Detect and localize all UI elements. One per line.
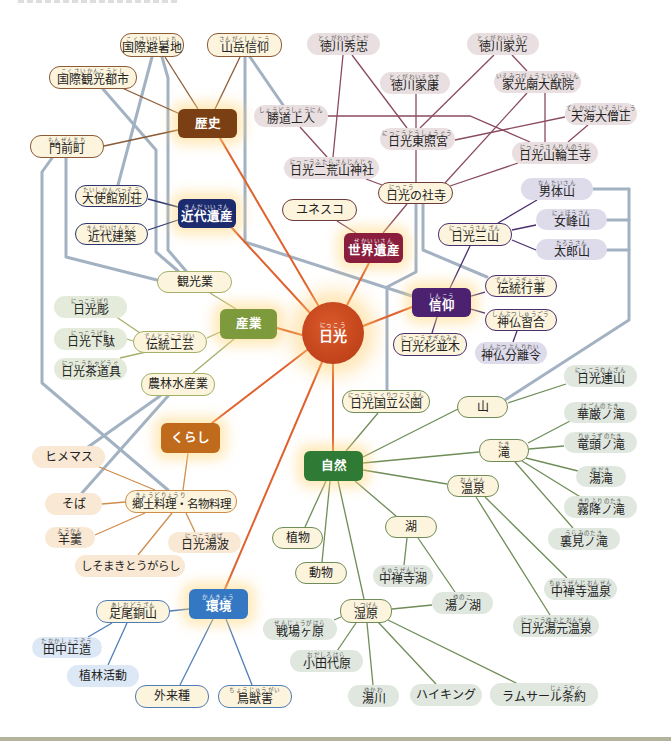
center-label: 日光	[319, 328, 347, 344]
node-kegon-falls: けごんのたき華厳ノ滝	[564, 402, 637, 423]
node-label: 伝統行事	[497, 283, 545, 296]
node-label: 徳川秀忠	[320, 41, 368, 54]
node-wetlands: しつげん湿原	[340, 599, 392, 623]
node-hot-springs: おんせん温泉	[447, 475, 499, 497]
node-label: 植林活動	[79, 670, 127, 683]
node-label: 日光山輪王寺	[519, 150, 591, 163]
node-local-cuisine: きょうどりょうり郷土料理・名物料理	[125, 490, 237, 513]
node-label: ラムサール条約	[502, 691, 586, 704]
node-nikko-national-park: にっこうこくりつこうえん日光国立公園	[342, 390, 430, 413]
category-living: くらし	[161, 423, 220, 453]
category-label: 歴史	[195, 117, 221, 131]
node-label: ハイキング	[416, 689, 476, 702]
node-label: 山	[477, 401, 489, 414]
node-nikko-carving: にっこうぼり日光彫	[54, 296, 127, 318]
node-ryuzu-falls: りゅうずのたき竜頭ノ滝	[564, 432, 637, 453]
node-unesco: ユネスコ	[282, 199, 357, 221]
node-label: 勝道上人	[267, 113, 315, 126]
node-label: 農林水産業	[148, 378, 208, 391]
node-label: 大使館別荘	[82, 193, 142, 206]
node-shrines-and-temples: にっこう日光の社寺	[378, 182, 453, 204]
node-plants: 植物	[272, 527, 323, 549]
node-nikko-geta: にっこうげた日光下駄	[54, 328, 127, 350]
node-label: 足尾銅山	[109, 608, 157, 621]
node-label: ヒメマス	[45, 451, 93, 464]
node-label: 家光廟大猷院	[502, 79, 574, 92]
node-label: 徳川家光	[479, 41, 527, 54]
category-label: 産業	[236, 317, 262, 331]
node-label: 湿原	[354, 608, 378, 621]
node-nikko-yuba: にっこうゆば日光湯波	[168, 532, 241, 553]
node-label: 華厳ノ滝	[577, 409, 625, 422]
category-label: 自然	[321, 459, 347, 473]
node-senjogahara: せんじょうがはら戦場ヶ原	[263, 618, 337, 640]
node-lakes: 湖	[385, 516, 437, 538]
node-label: 門前町	[49, 143, 85, 156]
node-label: 日光彫	[73, 304, 109, 317]
node-label: 伝統工芸	[146, 339, 194, 352]
node-label: 女峰山	[554, 216, 590, 229]
node-label: 裏見ノ滝	[560, 536, 608, 549]
node-label: 日光の社寺	[386, 190, 446, 203]
node-reforestation: 植林活動	[67, 665, 139, 687]
node-label: 徳川家康	[391, 80, 439, 93]
node-label: 湯川	[362, 693, 386, 706]
node-label: 戦場ヶ原	[276, 626, 324, 639]
node-mt-nantai: なんたいさん男体山	[521, 178, 593, 200]
node-cedar-avenue: にっこうすぎなみき日光杉並木	[393, 333, 467, 356]
node-yudaki-falls: ゆだき湯滝	[576, 466, 626, 487]
nature-link-lines	[305, 384, 582, 685]
node-shisomaki-togarashi: しそまきとうがらし	[75, 555, 185, 577]
node-futarasan-shrine: にっこうふたらさんじんじゃ日光二荒山神社	[284, 157, 379, 179]
node-taiyuin-mausoleum: いえみつびょうたいゆういん家光廟大猷院	[494, 71, 581, 93]
node-agriculture-forestry-fishery: 農林水産業	[141, 373, 215, 396]
category-label: 近代遺産	[181, 210, 233, 224]
node-label: 日光茶道具	[61, 366, 121, 379]
node-soba: そば	[45, 493, 102, 515]
node-label: 神仏分離令	[481, 350, 541, 363]
category-label: くらし	[171, 431, 210, 445]
node-shodo-shonin: しょうどうしょうにん勝道上人	[254, 105, 328, 127]
node-invasive-species: 外来種	[135, 685, 209, 708]
node-label: 日光下駄	[67, 336, 115, 349]
node-tokugawa-ieyasu: とくがわいえやす徳川家康	[380, 72, 450, 94]
node-tokugawa-iemitsu: とくがわいえみつ徳川家光	[467, 33, 539, 55]
node-label: 竜頭ノ滝	[577, 439, 625, 452]
node-odashirogahara: おだしろはら小田代原	[290, 650, 363, 672]
modern-heritage-link-lines	[148, 199, 178, 230]
node-ramsar-convention: じょうやくラムサール条約	[490, 683, 598, 706]
node-label: 日光東照宮	[388, 136, 448, 149]
node-traditional-events: でんとうぎょうじ伝統行事	[485, 275, 557, 297]
node-label: 日光二荒山神社	[290, 165, 374, 178]
node-wildlife-damage: ちょうじゅうがい鳥獣害	[218, 685, 292, 708]
category-label: 環境	[206, 600, 232, 614]
node-mt-nyoho: にょほうさん女峰山	[536, 209, 607, 230]
node-label: 滝	[498, 447, 510, 460]
node-rinnoji-temple: にっこうさんりんのうじ日光山輪王寺	[512, 142, 598, 164]
node-tokugawa-hidetada: とくがわひでただ徳川秀忠	[307, 33, 380, 55]
node-label: 温泉	[461, 483, 485, 496]
node-label: 神仏習合	[497, 317, 545, 330]
node-label: 中禅寺温泉	[551, 586, 611, 599]
category-faith: しんこう信仰	[412, 288, 471, 317]
node-mountain-worship: さんがくしんこう山岳信仰	[207, 33, 282, 57]
node-tanaka-shozo: たなかしょうぞう田中正造	[32, 637, 102, 658]
node-label: 植物	[286, 532, 310, 545]
node-label: 国際避暑地	[122, 42, 182, 55]
node-label: 日光湯波	[181, 539, 229, 552]
category-history: 歴史	[178, 109, 237, 138]
node-urami-falls: うらみのたき裏見ノ滝	[548, 528, 620, 550]
category-label: 世界遺産	[348, 244, 400, 258]
node-modern-architecture: きんだいけんちく近代建築	[75, 223, 148, 245]
node-label: 鳥獣害	[237, 693, 273, 706]
node-label: 太郎山	[554, 246, 590, 259]
node-shinbutsu-shugo: しんぶつしゅうごう神仏習合	[485, 309, 557, 331]
node-temple-town: もんぜんまち門前町	[30, 135, 104, 158]
node-label: 日光連山	[577, 373, 625, 386]
node-nikko-three-mountains: にっこうさんざん日光三山	[438, 223, 512, 246]
node-label: 湯滝	[589, 473, 613, 486]
node-tenkai: てんかいだいそうじょう天海大僧正	[565, 103, 637, 125]
category-modern-heritage: きんだいいさん近代遺産	[178, 199, 236, 228]
node-label: そば	[62, 498, 86, 511]
node-international-summer-resort: こくさいひしょち国際避暑地	[120, 33, 184, 57]
